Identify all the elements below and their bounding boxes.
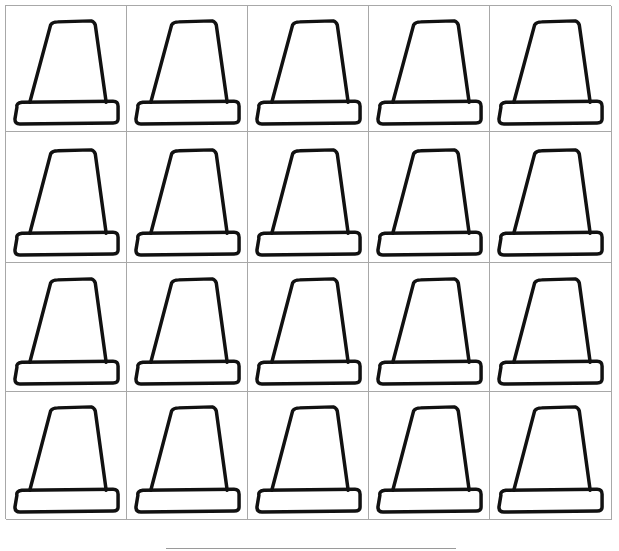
pilgrim-hat-icon (127, 392, 247, 519)
pilgrim-hat-icon (248, 263, 368, 391)
grid-cell (369, 263, 490, 392)
grid-cell (490, 6, 612, 132)
grid-cell (127, 6, 248, 132)
grid-cell (490, 392, 612, 520)
pilgrim-hat-icon (6, 132, 126, 262)
grid-cell (248, 392, 369, 520)
pilgrim-hat-icon (6, 263, 126, 391)
pilgrim-hat-icon (127, 263, 247, 391)
pilgrim-hat-icon (127, 132, 247, 262)
pilgrim-hat-icon (248, 6, 368, 131)
pilgrim-hat-icon (369, 263, 489, 391)
pilgrim-hat-icon (248, 392, 368, 519)
pilgrim-hat-icon (369, 132, 489, 262)
name-line (166, 548, 456, 549)
grid-cell (369, 132, 490, 263)
pilgrim-hat-icon (369, 6, 489, 131)
grid-cell (6, 6, 127, 132)
grid-cell (248, 132, 369, 263)
pilgrim-hat-icon (490, 6, 611, 131)
pilgrim-hat-icon (490, 392, 611, 519)
pilgrim-hat-icon (369, 392, 489, 519)
pilgrim-hat-icon (248, 132, 368, 262)
grid-cell (6, 132, 127, 263)
pilgrim-hat-icon (6, 6, 126, 131)
pilgrim-hat-icon (127, 6, 247, 131)
grid-cell (6, 392, 127, 520)
grid-cell (127, 132, 248, 263)
grid-cell (248, 263, 369, 392)
grid-cell (369, 6, 490, 132)
pilgrim-hat-icon (490, 263, 611, 391)
grid-cell (248, 6, 369, 132)
grid-cell (369, 392, 490, 520)
hat-grid (5, 5, 611, 519)
grid-cell (490, 132, 612, 263)
pilgrim-hat-icon (6, 392, 126, 519)
grid-cell (490, 263, 612, 392)
pilgrim-hat-icon (490, 132, 611, 262)
grid-cell (6, 263, 127, 392)
grid-cell (127, 263, 248, 392)
grid-cell (127, 392, 248, 520)
